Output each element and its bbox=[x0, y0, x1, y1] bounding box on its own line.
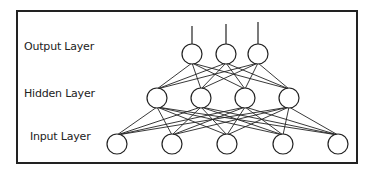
hidden-node bbox=[147, 88, 167, 108]
connection-line bbox=[157, 63, 192, 89]
connection-line bbox=[245, 63, 258, 89]
connection-line bbox=[201, 63, 226, 89]
input-node bbox=[328, 134, 348, 154]
input-node bbox=[273, 134, 293, 154]
input-node bbox=[217, 134, 237, 154]
connection-line bbox=[157, 63, 226, 89]
hidden-node bbox=[235, 88, 255, 108]
connection-line bbox=[283, 107, 289, 135]
output-node bbox=[248, 44, 268, 64]
connection-line bbox=[157, 107, 227, 135]
nodes bbox=[107, 44, 348, 154]
input-node bbox=[107, 134, 127, 154]
output-stems bbox=[192, 22, 258, 44]
hidden-node bbox=[191, 88, 211, 108]
output-node bbox=[182, 44, 202, 64]
input-node bbox=[162, 134, 182, 154]
connection-line bbox=[117, 107, 245, 135]
connection-line bbox=[201, 63, 258, 89]
output-node bbox=[216, 44, 236, 64]
hidden-node bbox=[279, 88, 299, 108]
neural-network-diagram bbox=[0, 0, 369, 173]
